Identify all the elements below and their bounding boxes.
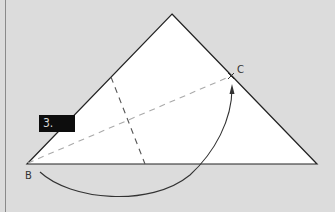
- point-c-label: C: [237, 65, 244, 75]
- step-number-badge: 3.: [39, 115, 75, 132]
- diagram-canvas: 3. B C: [0, 0, 335, 212]
- point-b-label: B: [25, 171, 32, 181]
- paper-triangle: [27, 14, 317, 164]
- fold-diagram: [0, 0, 335, 212]
